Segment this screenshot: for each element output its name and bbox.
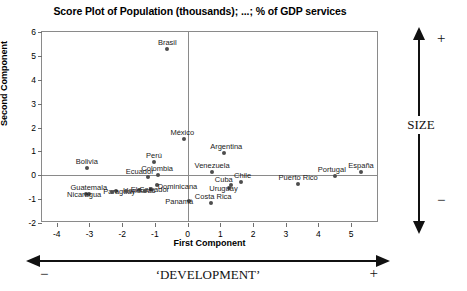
data-point-label: Ecuador [126, 167, 154, 176]
x-tick-mark [155, 223, 156, 227]
data-point[interactable] [165, 47, 169, 51]
arrow-down-icon [413, 221, 425, 234]
x-tick-mark [253, 223, 254, 227]
data-point-label: Bolivia [76, 157, 98, 166]
y-tick-label: -2 [28, 218, 36, 228]
y-tick-mark [38, 128, 42, 129]
size-minus-label: − [437, 192, 445, 209]
data-point-label: Puerto Rico [279, 173, 318, 182]
data-point-label: España [348, 161, 373, 170]
y-tick-label: 5 [31, 51, 36, 61]
x-tick-mark [89, 223, 90, 227]
y-tick-mark [38, 151, 42, 152]
x-tick-mark [188, 223, 189, 227]
y-tick-mark [38, 80, 42, 81]
y-tick-mark [38, 175, 42, 176]
development-label: ‘DEVELOPMENT’ [24, 267, 392, 283]
x-tick-mark [286, 223, 287, 227]
y-tick-mark [38, 32, 42, 33]
data-point[interactable] [143, 189, 147, 193]
data-point-label: Uruguay [209, 184, 237, 193]
x-tick-mark [57, 223, 58, 227]
x-tick-mark [122, 223, 123, 227]
y-tick-mark [38, 223, 42, 224]
size-plus-label: + [437, 30, 445, 47]
horizontal-reference-line [42, 175, 377, 176]
y-tick-label: 2 [31, 123, 36, 133]
data-point-label: Argentina [210, 142, 242, 151]
data-point[interactable] [209, 201, 213, 205]
x-axis-title: First Component [41, 238, 378, 248]
y-tick-label: 6 [31, 27, 36, 37]
y-tick-mark [38, 56, 42, 57]
chart-title: Score Plot of Population (thousands); ..… [0, 5, 400, 17]
y-axis-title: Second Component [0, 41, 9, 126]
data-point-label: Perú [146, 151, 162, 160]
y-tick-label: 1 [31, 146, 36, 156]
data-point[interactable] [239, 180, 243, 184]
size-label: SIZE [392, 116, 450, 134]
development-minus-label: − [40, 266, 48, 283]
data-point-label: Chile [234, 171, 251, 180]
data-point[interactable] [359, 170, 363, 174]
data-point-label: Nicaragua [67, 190, 101, 199]
data-point[interactable] [296, 182, 300, 186]
score-plot-page: Score Plot of Population (thousands); ..… [0, 0, 467, 291]
y-tick-label: -1 [28, 194, 36, 204]
data-point[interactable] [222, 151, 226, 155]
y-tick-mark [38, 104, 42, 105]
plot-area: -2-10123456 -4-3-2-1012345 BrasilMéxicoA… [41, 31, 378, 222]
data-point-label: Brasil [158, 38, 177, 47]
arrow-right-icon [376, 255, 390, 267]
vertical-reference-line [188, 32, 189, 221]
data-point[interactable] [333, 174, 337, 178]
data-point-label: Paraguay [103, 187, 135, 196]
data-point[interactable] [182, 137, 186, 141]
data-point[interactable] [210, 170, 214, 174]
data-point-label: Venezuela [195, 161, 230, 170]
data-point-label: Portugal [318, 165, 346, 174]
y-tick-label: 4 [31, 75, 36, 85]
development-plus-label: + [370, 265, 378, 282]
x-tick-mark [220, 223, 221, 227]
data-point-label: Panamá [165, 197, 193, 206]
data-point[interactable] [85, 166, 89, 170]
data-point-label: México [170, 128, 194, 137]
y-tick-label: 0 [31, 170, 36, 180]
x-tick-mark [318, 223, 319, 227]
y-tick-mark [38, 199, 42, 200]
development-arrow-shaft [38, 260, 378, 262]
size-annotation: SIZE + − [392, 24, 467, 236]
x-tick-mark [351, 223, 352, 227]
data-point-label: Costa Rica [195, 192, 232, 201]
development-annotation: ‘DEVELOPMENT’ − + [24, 252, 392, 288]
y-tick-label: 3 [31, 99, 36, 109]
data-point[interactable] [156, 173, 160, 177]
